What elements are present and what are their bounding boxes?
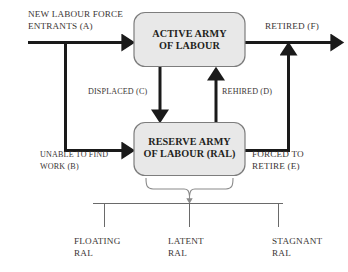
- forced-label-line1: FORCED TO: [252, 149, 304, 159]
- ral-composition-brace: [146, 178, 233, 202]
- latent-ral-line1: LATENT: [168, 236, 204, 246]
- label-displaced: DISPLACED (C): [88, 87, 147, 96]
- node-active-army-of-labour[interactable]: ACTIVE ARMY OF LABOUR: [134, 13, 245, 67]
- ral-category-bracket: [93, 204, 283, 228]
- floating-ral-line2: RAL: [74, 248, 93, 258]
- label-forced-to-retire: FORCED TO RETIRE (E): [252, 149, 304, 171]
- rehired-label: REHIRED (D): [222, 87, 272, 96]
- category-label-stagnant-ral: STAGNANT RAL: [272, 236, 323, 258]
- latent-ral-line2: RAL: [168, 248, 187, 258]
- labour-flow-diagram: ACTIVE ARMY OF LABOUR RESERVE ARMY OF LA…: [0, 0, 348, 272]
- unable-label-line2: WORK (B): [40, 162, 79, 171]
- retired-label: RETIRED (F): [265, 21, 319, 31]
- reserve-army-label-line2: OF LABOUR (RAL): [143, 148, 235, 160]
- stagnant-ral-line2: RAL: [272, 248, 291, 258]
- arrow-forced-to-retire: [245, 49, 289, 151]
- forced-label-line2: RETIRE (E): [252, 161, 300, 171]
- label-unable-to-find-work: UNABLE TO FIND WORK (B): [40, 150, 108, 171]
- reserve-army-label-line1: RESERVE ARMY: [148, 136, 231, 147]
- active-army-label-line1: ACTIVE ARMY: [152, 28, 227, 39]
- arrow-unable-to-find-work: [66, 43, 129, 151]
- label-new-labour-force-entrants: NEW LABOUR FORCE ENTRANTS (A): [28, 9, 123, 31]
- stagnant-ral-line1: STAGNANT: [272, 236, 323, 246]
- entrants-label-line1: NEW LABOUR FORCE: [28, 9, 123, 19]
- category-label-latent-ral: LATENT RAL: [168, 236, 204, 258]
- floating-ral-line1: FLOATING: [74, 236, 121, 246]
- category-label-floating-ral: FLOATING RAL: [74, 236, 121, 258]
- label-retired: RETIRED (F): [265, 21, 319, 31]
- label-rehired: REHIRED (D): [222, 87, 272, 96]
- diagram-canvas: ACTIVE ARMY OF LABOUR RESERVE ARMY OF LA…: [0, 0, 348, 272]
- active-army-label-line2: OF LABOUR: [159, 40, 220, 51]
- entrants-label-line2: ENTRANTS (A): [28, 21, 93, 31]
- unable-label-line1: UNABLE TO FIND: [40, 150, 108, 159]
- node-reserve-army-of-labour[interactable]: RESERVE ARMY OF LABOUR (RAL): [134, 123, 245, 176]
- displaced-label: DISPLACED (C): [88, 87, 147, 96]
